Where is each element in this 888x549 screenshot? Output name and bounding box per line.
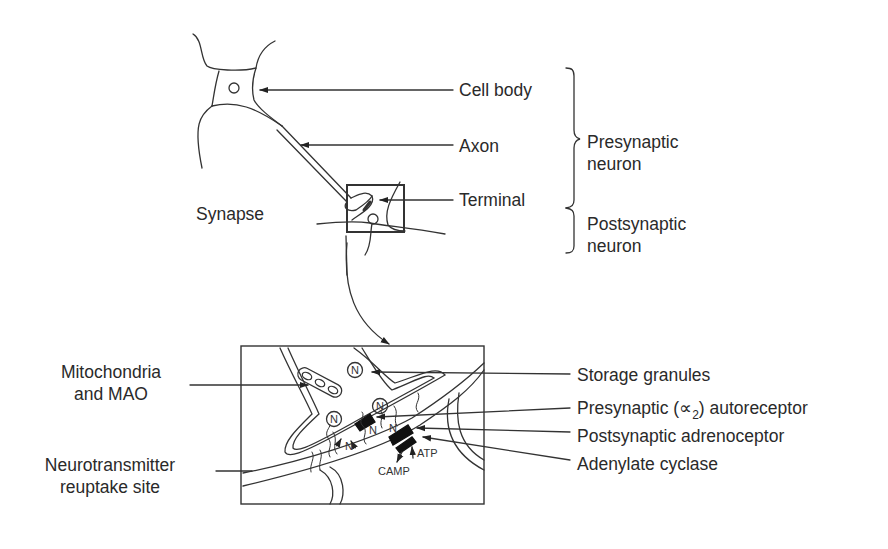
label-presynaptic-autoreceptor: Presynaptic (∝2) autoreceptor xyxy=(577,398,808,425)
granule-n-2: N xyxy=(330,413,338,425)
label-postsynaptic-adrenoceptor: Postsynaptic adrenoceptor xyxy=(577,426,784,446)
adrenoceptor-pointer xyxy=(417,428,570,432)
camp-arrow xyxy=(397,452,402,462)
granule-n-1: N xyxy=(351,364,359,376)
neuron-cell-body xyxy=(193,34,282,168)
alpha-symbol: ∝ xyxy=(679,398,692,418)
presynaptic-terminal-detail xyxy=(280,348,445,455)
label-adenylate-cyclase: Adenylate cyclase xyxy=(577,454,718,474)
label-camp: CAMP xyxy=(378,465,410,477)
label-synapse: Synapse xyxy=(196,204,264,224)
label-terminal: Terminal xyxy=(459,190,525,210)
label-axon: Axon xyxy=(459,136,499,156)
label-postsynaptic-2: neuron xyxy=(587,236,642,256)
zoom-arrow xyxy=(346,243,389,344)
terminal-region xyxy=(317,182,445,275)
label-mitochondria-2: and MAO xyxy=(46,384,176,404)
presynaptic-bracket xyxy=(566,68,580,208)
autoreceptor-pointer xyxy=(377,408,570,417)
label-reuptake-2: reuptake site xyxy=(30,477,190,497)
granule-n-3: N xyxy=(376,400,384,412)
neurotransmitter-n-3: N xyxy=(345,440,353,452)
adenylate-cyclase-pointer xyxy=(423,437,570,460)
storage-granules-pointer xyxy=(372,372,570,374)
label-atp: ATP xyxy=(417,447,438,459)
atp-arrow xyxy=(412,447,413,458)
label-presynaptic-2: neuron xyxy=(587,154,642,174)
axon xyxy=(277,126,351,202)
label-presynaptic-1: Presynaptic xyxy=(587,132,678,152)
label-postsynaptic-1: Postsynaptic xyxy=(587,214,686,234)
label-reuptake-1: Neurotransmitter xyxy=(30,455,190,475)
postsynaptic-membrane xyxy=(243,363,484,504)
postsynaptic-bracket xyxy=(566,208,574,253)
label-cell-body: Cell body xyxy=(459,80,532,100)
neurotransmitter-n-2: N xyxy=(389,422,397,434)
label-mitochondria-1: Mitochondria xyxy=(46,362,176,382)
neurotransmitter-n-1: N xyxy=(369,424,377,436)
label-storage-granules: Storage granules xyxy=(577,365,710,385)
